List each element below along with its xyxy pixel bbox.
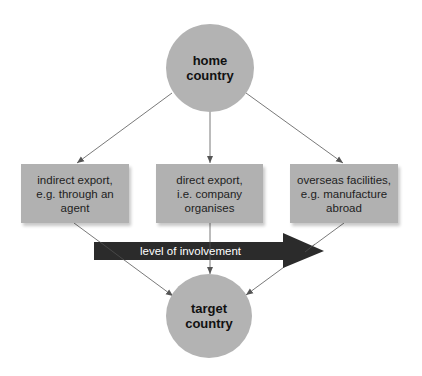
target-country-node: target country [166, 274, 252, 358]
direct-export-line-2: i.e. company [156, 187, 263, 201]
overseas-facilities-line-3: abroad [290, 201, 398, 215]
home-node-label-line-1: home [186, 53, 234, 68]
direct-export-box: direct export, i.e. company organises [156, 164, 263, 223]
edge-home-to-indirect [77, 93, 172, 163]
indirect-export-box: indirect export, e.g. through an agent [21, 164, 129, 223]
direct-export-line-3: organises [156, 201, 263, 215]
overseas-facilities-line-2: e.g. manufacture [290, 187, 398, 201]
involvement-arrow-label: level of involvement [140, 243, 241, 259]
overseas-facilities-line-1: overseas facilities, [290, 173, 398, 187]
indirect-export-line-2: e.g. through an [21, 187, 129, 201]
market-entry-diagram: home country indirect export, e.g. throu… [0, 0, 422, 376]
direct-export-line-1: direct export, [156, 173, 263, 187]
home-country-node: home country [166, 24, 254, 112]
indirect-export-line-3: agent [21, 201, 129, 215]
edge-home-to-overseas [246, 93, 343, 163]
indirect-export-line-1: indirect export, [21, 173, 129, 187]
target-node-label-line-2: country [185, 316, 233, 331]
target-node-label-line-1: target [185, 301, 233, 316]
home-node-label-line-2: country [186, 68, 234, 83]
overseas-facilities-box: overseas facilities, e.g. manufacture ab… [290, 164, 398, 223]
